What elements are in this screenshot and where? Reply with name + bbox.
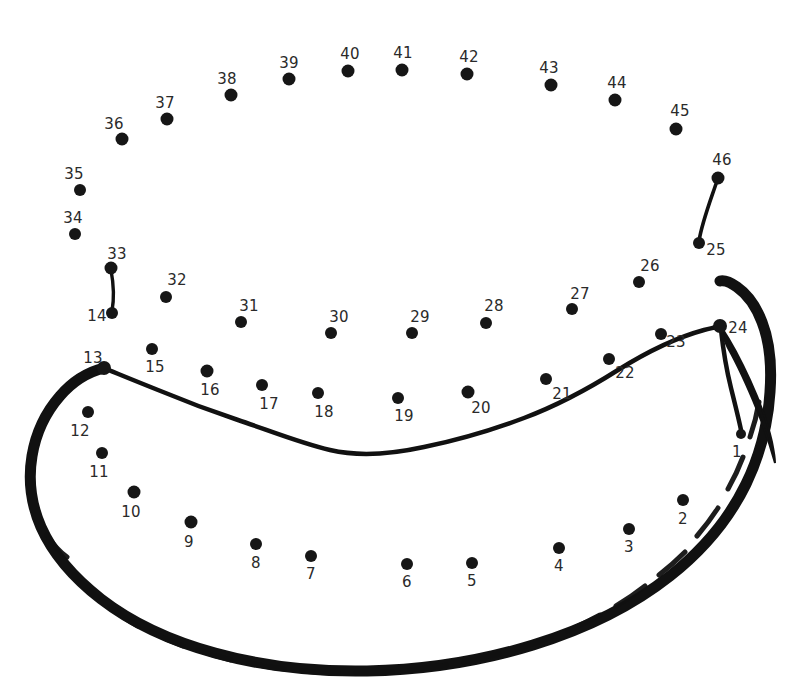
puzzle-dot[interactable]	[116, 133, 129, 146]
puzzle-dot[interactable]	[161, 113, 174, 126]
puzzle-dot[interactable]	[670, 123, 683, 136]
puzzle-dot[interactable]	[325, 327, 337, 339]
puzzle-dot[interactable]	[713, 319, 727, 333]
puzzle-page: 1234567891011121314151617181920212223242…	[0, 0, 785, 690]
puzzle-dot[interactable]	[74, 184, 86, 196]
puzzle-dot[interactable]	[342, 65, 355, 78]
puzzle-dot[interactable]	[566, 303, 578, 315]
dot-number-label: 42	[459, 48, 479, 66]
dot-number-label: 45	[670, 102, 690, 120]
puzzle-dot[interactable]	[623, 523, 635, 535]
puzzle-dot[interactable]	[401, 558, 413, 570]
puzzle-dot[interactable]	[677, 494, 689, 506]
puzzle-dot[interactable]	[283, 73, 296, 86]
dot-number-label: 44	[607, 74, 627, 92]
puzzle-dot[interactable]	[553, 542, 565, 554]
dot-number-label: 30	[329, 308, 349, 326]
puzzle-dot[interactable]	[250, 538, 262, 550]
dot-number-label: 40	[340, 45, 360, 63]
dot-number-label: 9	[184, 533, 194, 551]
puzzle-dot[interactable]	[82, 406, 94, 418]
dot-number-label: 31	[239, 297, 259, 315]
puzzle-dot[interactable]	[540, 373, 552, 385]
dot-number-label: 19	[394, 407, 414, 425]
puzzle-dot[interactable]	[480, 317, 492, 329]
puzzle-dot[interactable]	[235, 316, 247, 328]
dot-number-label: 46	[712, 151, 732, 169]
dot-number-label: 38	[217, 70, 237, 88]
dot-number-label: 37	[155, 94, 175, 112]
dot-number-label: 2	[678, 510, 688, 528]
puzzle-dot[interactable]	[160, 291, 172, 303]
dot-number-label: 11	[89, 463, 109, 481]
puzzle-dot[interactable]	[406, 327, 418, 339]
dot-number-label: 35	[64, 165, 84, 183]
puzzle-dot[interactable]	[305, 550, 317, 562]
puzzle-dot[interactable]	[392, 392, 404, 404]
puzzle-dot[interactable]	[256, 379, 268, 391]
dot-number-label: 16	[200, 381, 220, 399]
dot-number-label: 18	[314, 403, 334, 421]
dot-number-label: 28	[484, 297, 504, 315]
puzzle-dot[interactable]	[736, 429, 746, 439]
dot-number-label: 8	[251, 554, 261, 572]
puzzle-dot[interactable]	[396, 64, 409, 77]
dot-number-label: 20	[471, 399, 491, 417]
dot-number-label: 36	[104, 115, 124, 133]
dot-number-label: 24	[728, 319, 748, 337]
dot-number-label: 39	[279, 54, 299, 72]
puzzle-dot[interactable]	[712, 172, 725, 185]
puzzle-dot[interactable]	[545, 79, 558, 92]
puzzle-dot[interactable]	[461, 68, 474, 81]
puzzle-dot[interactable]	[462, 386, 475, 399]
puzzle-dot[interactable]	[603, 353, 615, 365]
puzzle-dot[interactable]	[633, 276, 645, 288]
dot-number-label: 14	[87, 307, 107, 325]
dot-number-label: 23	[666, 333, 686, 351]
dot-number-label: 10	[121, 503, 141, 521]
dot-number-label: 17	[259, 395, 279, 413]
dot-number-label: 41	[393, 44, 413, 62]
dot-number-label: 7	[306, 565, 316, 583]
puzzle-dot[interactable]	[146, 343, 158, 355]
puzzle-dot[interactable]	[312, 387, 324, 399]
puzzle-dot[interactable]	[105, 262, 118, 275]
puzzle-dot[interactable]	[201, 365, 214, 378]
dot-number-label: 3	[624, 538, 634, 556]
puzzle-dot[interactable]	[128, 486, 141, 499]
puzzle-dot[interactable]	[225, 89, 238, 102]
dot-number-label: 22	[615, 364, 635, 382]
dot-number-label: 15	[145, 358, 165, 376]
dot-number-label: 25	[706, 241, 726, 259]
puzzle-dot[interactable]	[69, 228, 81, 240]
puzzle-dot[interactable]	[693, 237, 705, 249]
dot-number-label: 27	[570, 285, 590, 303]
dot-number-label: 12	[70, 422, 90, 440]
dot-number-label: 29	[410, 308, 430, 326]
dot-number-label: 32	[167, 271, 187, 289]
puzzle-dot[interactable]	[466, 557, 478, 569]
dot-number-label: 4	[554, 557, 564, 575]
puzzle-dot[interactable]	[609, 94, 622, 107]
puzzle-dot[interactable]	[185, 516, 198, 529]
puzzle-dot[interactable]	[106, 307, 118, 319]
dot-number-label: 43	[539, 59, 559, 77]
dot-number-label: 21	[552, 385, 572, 403]
dot-number-label: 5	[467, 572, 477, 590]
dot-number-label: 33	[107, 245, 127, 263]
dot-number-label: 34	[63, 209, 83, 227]
dot-number-label: 13	[83, 349, 103, 367]
dot-layer: 1234567891011121314151617181920212223242…	[0, 0, 785, 690]
puzzle-dot[interactable]	[96, 447, 108, 459]
dot-number-label: 6	[402, 573, 412, 591]
dot-number-label: 26	[640, 257, 660, 275]
dot-number-label: 1	[732, 443, 742, 461]
